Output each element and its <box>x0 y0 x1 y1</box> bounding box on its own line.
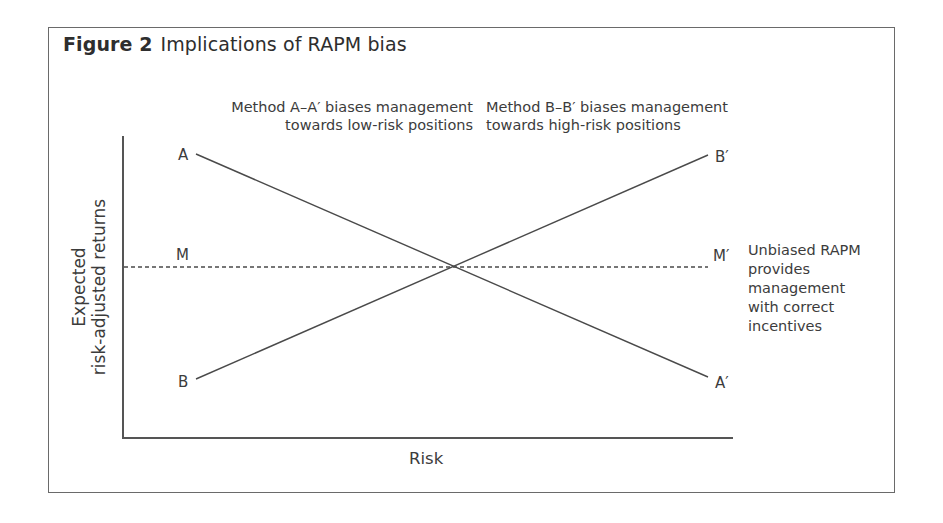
diagram-canvas: A B M B′ A′ M′ Expected risk-adjusted re… <box>0 0 943 523</box>
y-axis-label-line1: Expected <box>69 247 89 326</box>
label-m: M <box>176 246 189 264</box>
label-a: A <box>178 146 189 164</box>
y-axis-label-line2: risk-adjusted returns <box>89 199 109 375</box>
label-aprime: A′ <box>715 374 729 392</box>
label-bprime: B′ <box>715 148 729 166</box>
line-a-aprime <box>196 154 708 377</box>
y-axis-label: Expected risk-adjusted returns <box>69 199 109 375</box>
label-b: B <box>178 373 188 391</box>
label-mprime: M′ <box>713 247 730 265</box>
x-axis-label: Risk <box>409 449 443 468</box>
